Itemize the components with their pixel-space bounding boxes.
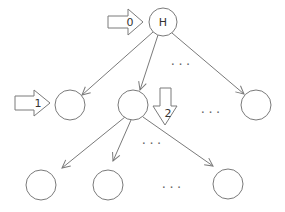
svg-text:0: 0 <box>127 16 134 29</box>
root-node: H <box>149 8 177 36</box>
step-arrow-2: 2 <box>153 88 177 125</box>
level1-node-1 <box>55 90 85 120</box>
ellipsis-level1: ... <box>200 103 223 116</box>
tree-diagram: H 0 1 2 ... ... ... ... <box>0 0 285 212</box>
step-arrow-1: 1 <box>15 90 50 116</box>
level2-node-1 <box>26 170 56 200</box>
level2-node-n <box>213 169 243 199</box>
level2-node-2 <box>93 170 123 200</box>
level1-node-2 <box>118 90 148 120</box>
step-arrow-0: 0 <box>108 9 143 35</box>
ellipsis-level2: ... <box>161 178 184 191</box>
ellipsis-level1-edges: ... <box>141 134 164 147</box>
root-edges <box>82 32 244 95</box>
level1-edges <box>62 117 213 168</box>
svg-text:2: 2 <box>165 107 172 120</box>
root-label: H <box>159 16 167 29</box>
ellipsis-root-edges: ... <box>170 55 193 68</box>
level1-node-n <box>241 90 271 120</box>
svg-text:1: 1 <box>35 97 42 110</box>
